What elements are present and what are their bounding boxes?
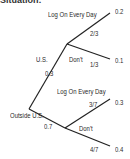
- outside-logon-conditional: 3/7: [89, 101, 97, 108]
- us-probability: 0.3: [45, 70, 53, 77]
- us-logon-label: Log On Every Day: [48, 11, 97, 18]
- outside-logon-joint: 0.3: [115, 99, 123, 106]
- branch-outside-logon: [65, 99, 110, 128]
- outside-probability: 0.7: [44, 123, 52, 130]
- outside-dont-joint: 0.4: [115, 146, 123, 153]
- us-dont-conditional: 1/3: [90, 61, 98, 68]
- tree-diagram: [0, 0, 130, 159]
- us-logon-joint: 0.2: [115, 8, 123, 15]
- outside-label: Outside U.S.: [10, 112, 44, 119]
- us-dont-label: Don't: [69, 56, 83, 63]
- outside-dont-conditional: 4/7: [90, 146, 98, 153]
- us-dont-joint: 0.1: [115, 57, 123, 64]
- us-label: U.S.: [36, 56, 48, 63]
- outside-logon-label: Log On Every Day: [57, 88, 106, 95]
- outside-dont-label: Don't: [79, 125, 93, 132]
- us-logon-conditional: 2/3: [90, 30, 98, 37]
